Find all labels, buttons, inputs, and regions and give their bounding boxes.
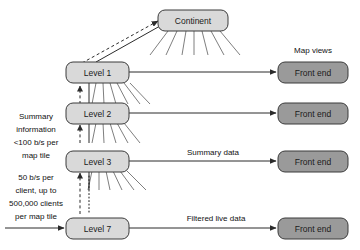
client-rate-line-1: 50 b/s per [18,173,54,182]
node-frontend-3[interactable]: Front end [278,151,348,172]
node-level1-label: Level 1 [84,68,112,78]
level1-to-continent-connectors [82,21,160,63]
node-frontend-4[interactable]: Front end [278,218,348,239]
node-level3-label: Level 3 [84,157,112,167]
label-summary-data: Summary data [187,148,240,157]
client-rate-line-3: 500,000 clients [9,199,63,208]
continent-fan-lines [150,31,240,55]
node-level2-label: Level 2 [84,109,112,119]
summary-info-line-4: map tile [22,151,51,160]
node-level7-label: Level 7 [84,224,112,234]
label-map-views: Map views [294,46,332,55]
node-frontend-2-label: Front end [295,109,332,119]
diagram-canvas: Continent Level 1 Level 2 Level 3 Level … [0,0,360,250]
node-frontend-4-label: Front end [295,224,332,234]
node-frontend-3-label: Front end [295,157,332,167]
client-rate-line-2: client, up to [16,186,57,195]
node-continent[interactable]: Continent [158,10,228,31]
architecture-diagram: Continent Level 1 Level 2 Level 3 Level … [0,0,360,250]
node-frontend-2[interactable]: Front end [278,103,348,124]
node-frontend-1[interactable]: Front end [278,62,348,83]
client-rate-line-4: per map tile [15,212,57,221]
summary-info-line-2: information [16,125,56,134]
node-frontend-1-label: Front end [295,68,332,78]
node-level2[interactable]: Level 2 [66,103,129,124]
node-level3[interactable]: Level 3 [66,151,129,172]
summary-info-line-3: <100 b/s per [14,138,59,147]
label-filtered-live-data: Filtered live data [187,214,246,223]
annotation-summary-information: Summary information <100 b/s per map til… [14,112,59,160]
summary-info-line-1: Summary [19,112,53,121]
node-continent-label: Continent [175,16,212,26]
node-level1[interactable]: Level 1 [66,62,129,83]
annotation-client-rate: 50 b/s per client, up to 500,000 clients… [9,173,63,221]
level1-fan-lines [92,83,150,104]
node-level7[interactable]: Level 7 [66,218,129,239]
level2-fan-lines [92,123,140,143]
level3-fan-lines [88,171,146,190]
